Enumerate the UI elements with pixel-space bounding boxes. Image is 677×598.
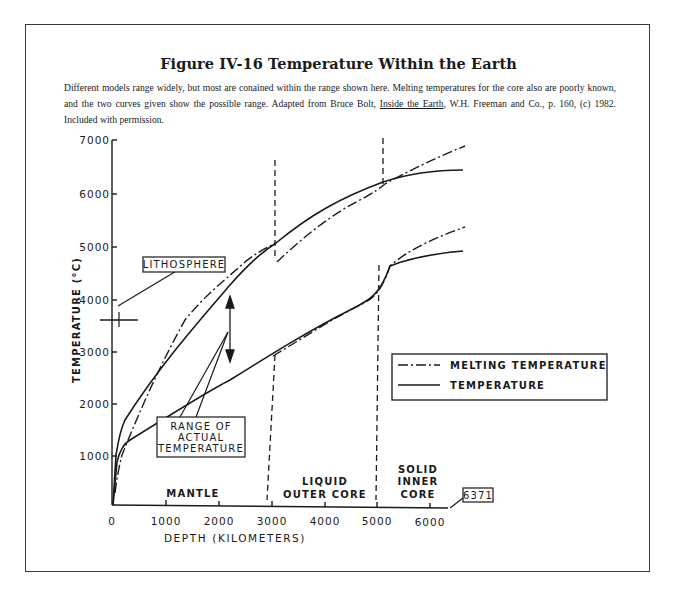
svg-text:TEMPERATURE: TEMPERATURE [157, 443, 244, 454]
legend-temperature-label: TEMPERATURE [450, 380, 545, 391]
lithosphere-label: LITHOSPHERE [143, 259, 226, 270]
x-axis-label: DEPTH (KILOMETERS) [164, 532, 306, 544]
region-inner: INNER [398, 476, 439, 487]
melting-upper-core-curve [277, 146, 465, 262]
cmb-boundary-bottom [267, 355, 275, 500]
svg-text:ACTUAL: ACTUAL [178, 432, 225, 443]
legend-melting-label: MELTING TEMPERATURE [450, 360, 607, 371]
x-tick-6000: 6000 [415, 516, 446, 528]
legend: MELTING TEMPERATURE TEMPERATURE [392, 354, 607, 400]
region-liquid: LIQUID [302, 476, 348, 487]
temperature-chart: 7000 6000 5000 4000 3000 2000 1000 0 100… [0, 0, 677, 598]
x-tick-1000: 1000 [151, 515, 182, 527]
region-core: CORE [400, 489, 435, 500]
y-axis-label: TEMPERATURE (°C) [71, 257, 82, 383]
x-tick-2000: 2000 [204, 515, 235, 527]
lithosphere-annotation: LITHOSPHERE [100, 257, 225, 327]
region-mantle: MANTLE [166, 488, 219, 499]
y-tick-4000: 4000 [79, 294, 110, 306]
range-of-actual-temperature-label: RANGE OF ACTUAL TEMPERATURE [157, 417, 245, 457]
icb-boundary-bottom [376, 265, 379, 500]
y-tick-6000: 6000 [79, 188, 110, 200]
x-tick-labels: 0 1000 2000 3000 4000 5000 6000 [108, 515, 445, 528]
y-tick-3000: 3000 [79, 346, 110, 358]
y-tick-labels: 7000 6000 5000 4000 3000 2000 1000 [79, 134, 110, 462]
y-tick-1000: 1000 [79, 450, 110, 462]
earth-radius-label: 6371 [463, 490, 493, 501]
x-tick-4000: 4000 [310, 515, 341, 527]
y-tick-7000: 7000 [79, 134, 110, 146]
x-tick-5000: 5000 [362, 515, 393, 527]
region-outer-core: OUTER CORE [283, 489, 367, 500]
range-pointers [180, 332, 228, 417]
earth-radius-annotation: 6371 [450, 488, 493, 508]
arrow-up-icon [226, 296, 234, 308]
svg-text:RANGE OF: RANGE OF [170, 421, 231, 432]
region-boundaries [267, 138, 383, 500]
region-solid: SOLID [398, 464, 438, 475]
y-tick-5000: 5000 [79, 241, 110, 253]
y-tick-2000: 2000 [79, 398, 110, 410]
arrow-down-icon [226, 350, 234, 362]
x-tick-0: 0 [108, 515, 116, 527]
x-axis [112, 505, 448, 508]
range-arrow [226, 296, 234, 362]
x-tick-3000: 3000 [257, 515, 288, 527]
